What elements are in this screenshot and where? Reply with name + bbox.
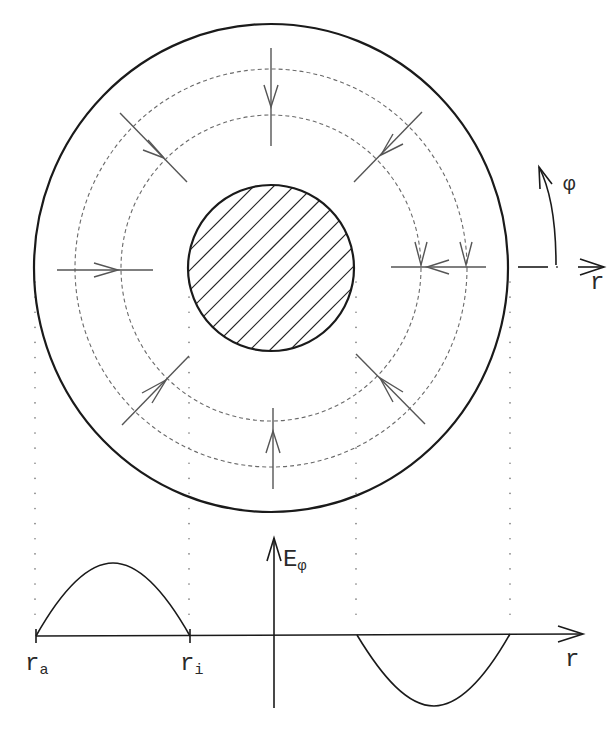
arrow-left-icon xyxy=(57,263,153,277)
phi-arrow-icon xyxy=(539,167,552,189)
arrow-bottom-icon xyxy=(266,408,280,489)
phi-arc-arrow xyxy=(539,167,556,265)
diagram-canvas: φ r Eφ r ra ri xyxy=(0,0,616,735)
tick-label-ri: ri xyxy=(180,650,203,679)
arrow-top-icon xyxy=(264,48,278,146)
r-label-top: r xyxy=(590,269,604,296)
origin-dot xyxy=(556,266,558,268)
positive-field-curve xyxy=(36,563,190,636)
tick-label-ra: ra xyxy=(25,650,48,679)
coordinate-indicator: φ r xyxy=(518,167,604,296)
plot-x-axis xyxy=(36,634,582,636)
phi-label: φ xyxy=(563,173,576,196)
inner-conductor-circle xyxy=(188,185,354,351)
arrow-right-icon xyxy=(391,242,486,274)
arrow-lower-left-icon xyxy=(122,356,189,425)
negative-field-curve xyxy=(357,634,510,706)
field-plot: Eφ r ra ri xyxy=(25,538,583,708)
y-axis-label: Eφ xyxy=(283,546,306,575)
arrow-lower-right-icon xyxy=(356,354,425,424)
x-axis-label: r xyxy=(565,646,579,673)
inner-conductor xyxy=(150,150,400,400)
arrow-upper-left-icon xyxy=(120,113,187,182)
